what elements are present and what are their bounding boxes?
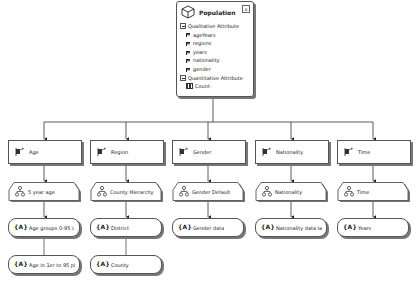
hierarchy-county-hierarchy[interactable]: County Hierarchy (90, 182, 162, 201)
dimension-label: Gender (193, 149, 211, 155)
level-gender-data[interactable]: {A} Gender data (172, 218, 244, 237)
hierarchy-5-year-age[interactable]: 5 year age (8, 182, 80, 201)
dimension-icon (344, 147, 353, 156)
quantitative-attribute-group[interactable]: Quantitative Attribute (180, 74, 243, 83)
attribute-item-regions[interactable]: regions (180, 39, 243, 48)
hierarchy-icon (344, 186, 354, 197)
attribute-label: years (193, 48, 207, 57)
level-icon: {A} (14, 223, 28, 230)
level-icon: {A} (96, 223, 110, 230)
dimension-label: Time (358, 149, 370, 155)
level-icon: {A} (14, 260, 28, 267)
level-age-groups[interactable]: {A} Age groups 0-95 i... (8, 218, 80, 237)
hierarchy-label: Nationality (275, 189, 302, 195)
attribute-label: regions (193, 39, 211, 48)
hierarchy-icon (262, 186, 272, 197)
measure-icon (186, 83, 193, 89)
level-years[interactable]: {A} Years (337, 218, 409, 237)
dimension-label: Nationality (276, 149, 303, 155)
cube-population[interactable]: Population x Qualitative Attribute ageYe… (176, 1, 254, 97)
hierarchy-label: Gender Default (192, 189, 230, 195)
level-county[interactable]: {A} County (90, 255, 162, 274)
dimension-label: Region (111, 149, 128, 155)
level-icon: {A} (343, 223, 357, 230)
hierarchy-label: Time (357, 189, 369, 195)
attribute-icon (186, 67, 191, 72)
level-district[interactable]: {A} District (90, 218, 162, 237)
level-label: Age in 1er to 95 pl... (29, 262, 75, 268)
dimension-time[interactable]: Time (337, 140, 411, 164)
level-label: Years (358, 225, 371, 231)
collapse-icon[interactable] (180, 75, 186, 81)
attribute-label: nationality (193, 56, 220, 65)
dimension-icon (97, 147, 106, 156)
qualitative-attribute-group[interactable]: Qualitative Attribute (180, 22, 243, 31)
dimension-icon (262, 147, 271, 156)
attribute-icon (186, 58, 191, 63)
level-age-in-1er[interactable]: {A} Age in 1er to 95 pl... (8, 255, 80, 274)
attribute-item-years[interactable]: years (180, 48, 243, 57)
measure-label: Count (195, 82, 210, 91)
hierarchy-nationality[interactable]: Nationality (255, 182, 327, 201)
dimension-nationality[interactable]: Nationality (255, 140, 329, 164)
collapse-icon[interactable] (180, 23, 186, 29)
attribute-item-gender[interactable]: gender (180, 65, 243, 74)
level-label: Gender data (193, 225, 224, 231)
dimension-gender[interactable]: Gender (172, 140, 246, 164)
attribute-label: ageYears (193, 31, 216, 40)
level-label: Age groups 0-95 i... (29, 225, 75, 231)
close-icon[interactable]: x (242, 5, 250, 13)
level-icon: {A} (261, 223, 275, 230)
dimension-label: Age (29, 149, 39, 155)
attribute-label: gender (193, 65, 211, 74)
attribute-item-nationality[interactable]: nationality (180, 56, 243, 65)
hierarchy-icon (97, 186, 107, 197)
hierarchy-icon (15, 186, 25, 197)
dimension-icon (15, 147, 24, 156)
level-label: Nationality data la... (276, 225, 322, 231)
level-label: County (111, 262, 129, 268)
qualitative-attribute-header: Qualitative Attribute (188, 22, 239, 31)
hierarchy-label: 5 year age (28, 189, 55, 195)
attribute-item-ageyears[interactable]: ageYears (180, 31, 243, 40)
cube-icon (181, 5, 195, 19)
quantitative-attribute-header: Quantitative Attribute (188, 74, 243, 83)
dimension-region[interactable]: Region (90, 140, 164, 164)
attribute-icon (186, 41, 191, 46)
level-icon: {A} (178, 223, 192, 230)
cube-attribute-tree: Qualitative Attribute ageYears regions y… (180, 22, 243, 91)
level-nationality-data[interactable]: {A} Nationality data la... (255, 218, 327, 237)
level-label: District (111, 225, 129, 231)
measure-item-count[interactable]: Count (180, 82, 243, 91)
attribute-icon (186, 50, 191, 55)
hierarchy-gender-default[interactable]: Gender Default (172, 182, 244, 201)
hierarchy-label: County Hierarchy (110, 189, 154, 195)
hierarchy-time[interactable]: Time (337, 182, 409, 201)
dimension-age[interactable]: Age (8, 140, 82, 164)
cube-title: Population (199, 9, 236, 16)
hierarchy-icon (179, 186, 189, 197)
level-icon: {A} (96, 260, 110, 267)
dimension-icon (179, 147, 188, 156)
attribute-icon (186, 32, 191, 37)
